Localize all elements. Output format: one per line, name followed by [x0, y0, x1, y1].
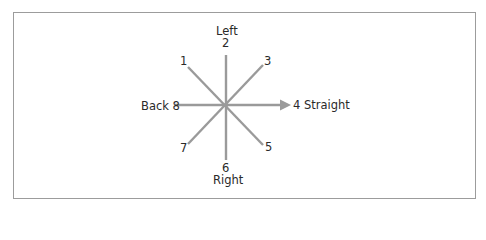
label-direction-5: 5	[265, 141, 272, 153]
label-straight-4: 4 Straight	[293, 99, 350, 111]
arrowhead-straight-icon	[280, 100, 291, 111]
label-direction-1: 1	[180, 55, 187, 67]
label-direction-3: 3	[264, 55, 271, 67]
label-direction-7: 7	[180, 142, 187, 154]
label-back-8: Back 8	[141, 100, 180, 112]
label-right-name: Right	[213, 174, 243, 186]
label-direction-2: 2	[222, 37, 229, 49]
center-point	[224, 103, 228, 107]
